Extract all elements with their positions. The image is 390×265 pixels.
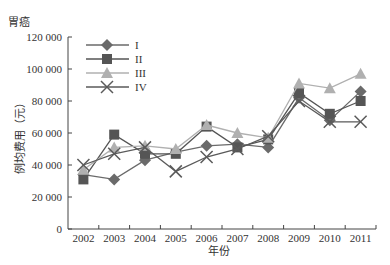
triangle-marker [293, 77, 305, 88]
x-tick-label: 2009 [288, 232, 311, 244]
x-axis: 2002200320042005200620072008200920102011 [68, 225, 376, 244]
legend-label: IV [135, 81, 147, 93]
legend-label: II [135, 53, 143, 65]
x-tick-label: 2010 [319, 232, 342, 244]
x-tick-label: 2008 [257, 232, 280, 244]
series-III [77, 68, 366, 175]
legend-item-IV: IV [86, 81, 147, 93]
square-marker [78, 174, 88, 184]
triangle-marker [355, 68, 367, 79]
chart-canvas: 胃癌 020 00040 00060 00080 000100 000120 0… [0, 0, 390, 265]
x-axis-label: 年份 [208, 244, 230, 257]
square-marker [109, 130, 119, 140]
x-tick-label: 2004 [134, 232, 157, 244]
x-marker [201, 151, 213, 163]
triangle-marker [139, 140, 151, 151]
x-tick-label: 2006 [196, 232, 219, 244]
y-tick-label: 0 [57, 223, 63, 235]
series-IV [77, 95, 366, 177]
y-tick-label: 20 000 [32, 191, 63, 203]
x-tick-label: 2007 [226, 232, 249, 244]
legend-item-III: III [86, 67, 146, 79]
y-tick-label: 100 000 [26, 63, 62, 75]
x-tick-label: 2011 [350, 232, 372, 244]
y-tick-label: 40 000 [32, 159, 63, 171]
legend-item-II: II [86, 53, 143, 65]
legend: IIIIIIIV [86, 39, 147, 93]
y-tick-label: 120 000 [26, 31, 62, 43]
y-axis: 020 00040 00060 00080 000100 000120 000 [26, 31, 72, 235]
line-chart: 胃癌 020 00040 00060 00080 000100 000120 0… [0, 0, 390, 265]
x-marker [170, 165, 182, 177]
x-tick-label: 2005 [165, 232, 188, 244]
diamond-marker [101, 39, 113, 51]
y-tick-label: 80 000 [32, 95, 63, 107]
square-marker [102, 54, 112, 64]
legend-item-I: I [86, 39, 139, 51]
legend-label: III [135, 67, 146, 79]
diamond-marker [201, 140, 213, 152]
y-axis-label: 例均费用（元） [13, 97, 26, 174]
legend-label: I [135, 39, 139, 51]
y-tick-label: 60 000 [32, 127, 63, 139]
diamond-marker [108, 173, 120, 185]
x-tick-label: 2002 [72, 232, 94, 244]
chart-title: 胃癌 [8, 15, 30, 28]
square-marker [356, 96, 366, 106]
series-II [78, 88, 365, 184]
series-layer [77, 68, 366, 186]
series-I [77, 85, 366, 185]
x-tick-label: 2003 [103, 232, 126, 244]
